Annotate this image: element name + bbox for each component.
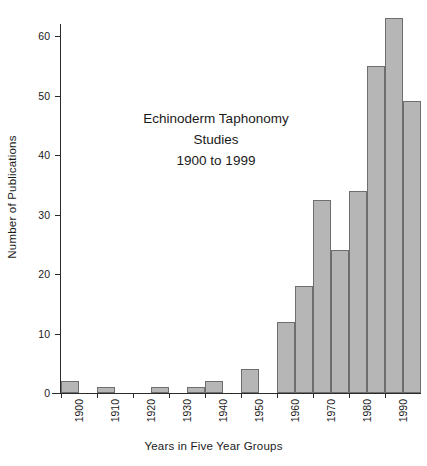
y-tick-label-20: 20	[24, 269, 50, 279]
bar-1985	[367, 66, 385, 393]
y-axis-title: Number of Publications	[0, 0, 24, 393]
plot-area	[61, 18, 421, 393]
x-tick-mark-1940	[205, 393, 206, 398]
x-tick-label-1970: 1970	[326, 399, 337, 422]
x-tick-label-1920: 1920	[146, 399, 157, 422]
x-tick-mark-1900	[61, 393, 62, 398]
x-tick-label-1950: 1950	[254, 399, 265, 422]
chart-title-line-0: Echinoderm Taphonomy	[96, 108, 336, 129]
y-axis-title-text: Number of Publications	[6, 135, 18, 258]
bar-1990	[385, 18, 403, 393]
x-tick-label-1960: 1960	[290, 399, 301, 422]
y-axis-tick-labels: 0102030405060	[24, 0, 50, 466]
bar-1995	[403, 101, 421, 393]
bar-1965	[295, 286, 313, 393]
bar-1975	[331, 250, 349, 393]
x-tick-label-1900: 1900	[74, 399, 85, 422]
y-axis-tick-marks	[50, 0, 60, 466]
bar-1900	[61, 381, 79, 393]
x-tick-mark-1960	[277, 393, 278, 398]
bar-chart-figure: Number of Publications 0102030405060 Ech…	[0, 0, 427, 466]
x-tick-mark-1910	[97, 393, 98, 398]
chart-title-line-2: 1900 to 1999	[96, 150, 336, 171]
bar-1970	[313, 200, 331, 393]
chart-title: Echinoderm TaphonomyStudies1900 to 1999	[96, 108, 336, 171]
x-tick-label-1910: 1910	[110, 399, 121, 422]
x-tick-mark-1920	[133, 393, 134, 398]
x-tick-label-1980: 1980	[362, 399, 373, 422]
chart-title-line-1: Studies	[96, 129, 336, 150]
x-tick-mark-1950	[241, 393, 242, 398]
y-tick-label-30: 30	[24, 210, 50, 220]
x-tick-label-1990: 1990	[398, 399, 409, 422]
x-tick-mark-1970	[313, 393, 314, 398]
x-tick-mark-1990	[385, 393, 386, 398]
y-tick-label-50: 50	[24, 91, 50, 101]
bar-1960	[277, 322, 295, 393]
y-tick-label-40: 40	[24, 150, 50, 160]
x-tick-mark-1980	[349, 393, 350, 398]
x-axis-title: Years in Five Year Groups	[0, 440, 427, 452]
bar-1950	[241, 369, 259, 393]
y-tick-label-10: 10	[24, 329, 50, 339]
y-tick-label-60: 60	[24, 31, 50, 41]
x-axis-tick-labels: 1900191019201930194019501960197019801990	[61, 399, 421, 439]
y-tick-label-0: 0	[24, 388, 50, 398]
bar-1980	[349, 191, 367, 393]
bar-1940	[205, 381, 223, 393]
x-tick-label-1930: 1930	[182, 399, 193, 422]
x-tick-label-1940: 1940	[218, 399, 229, 422]
x-tick-mark-1930	[169, 393, 170, 398]
